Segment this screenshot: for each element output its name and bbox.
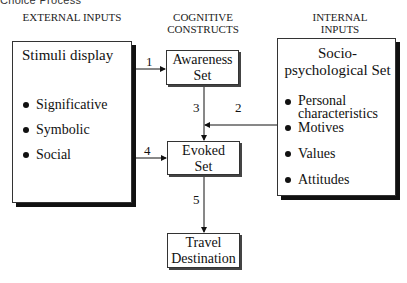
- stimuli-item-label: Symbolic: [36, 122, 90, 137]
- arrow-4-label: 4: [144, 143, 151, 159]
- internal-factor-label: Attitudes: [298, 172, 349, 187]
- stimuli-item: Significative: [22, 97, 108, 112]
- internal-factors-list: Personal characteristics Motives Values …: [284, 94, 390, 187]
- stimuli-item: Social: [22, 147, 108, 162]
- arrow-2-label: 2: [235, 100, 242, 116]
- bullet-icon: [285, 177, 291, 183]
- stimuli-list: Significative Symbolic Social: [22, 97, 108, 162]
- bullet-icon: [23, 152, 29, 158]
- internal-factor-item: Values: [284, 146, 390, 161]
- internal-factor-item: Personal characteristics: [284, 94, 390, 120]
- title-line-2: psychological Set: [278, 62, 397, 79]
- internal-factor-label: Values: [298, 146, 335, 161]
- external-inputs-box: Stimuli display Significative Symbolic S…: [12, 41, 132, 203]
- bullet-icon: [285, 151, 291, 157]
- evoked-set-node: Evoked Set: [167, 141, 240, 175]
- internal-factor-item: Motives: [284, 120, 390, 135]
- label-line-1: Evoked: [168, 143, 239, 159]
- bullet-icon: [285, 99, 291, 105]
- label-line-2: Set: [168, 159, 239, 175]
- arrow-5-label: 5: [193, 192, 200, 208]
- stimuli-item: Symbolic: [22, 122, 108, 137]
- title-line-1: Socio-: [278, 45, 397, 62]
- stimuli-item-label: Social: [36, 147, 71, 162]
- arrow-3-label: 3: [193, 100, 200, 116]
- bullet-icon: [285, 125, 291, 131]
- label-line-1: Travel: [168, 235, 239, 251]
- awareness-set-label: Awareness Set: [167, 52, 238, 84]
- internal-factor-item: Attitudes: [284, 172, 390, 187]
- bullet-icon: [23, 127, 29, 133]
- label-line-2: Set: [167, 68, 238, 84]
- travel-destination-label: Travel Destination: [168, 235, 239, 267]
- evoked-set-label: Evoked Set: [168, 143, 239, 175]
- awareness-set-node: Awareness Set: [166, 50, 239, 85]
- label-line-1: Awareness: [167, 52, 238, 68]
- internal-factor-label: Personal characteristics: [298, 94, 390, 120]
- internal-inputs-box: Socio- psychological Set Personal charac…: [277, 38, 396, 196]
- arrow-1-label: 1: [146, 54, 153, 70]
- stimuli-display-title: Stimuli display: [22, 47, 113, 64]
- bullet-icon: [23, 102, 29, 108]
- internal-factor-label: Motives: [298, 120, 344, 135]
- travel-destination-node: Travel Destination: [167, 233, 240, 268]
- stimuli-item-label: Significative: [36, 97, 108, 112]
- socio-psychological-set-title: Socio- psychological Set: [278, 45, 397, 79]
- label-line-2: Destination: [168, 251, 239, 267]
